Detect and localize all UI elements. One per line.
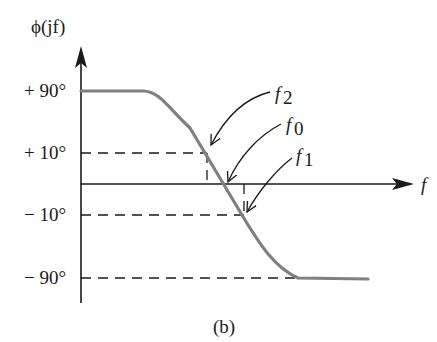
annotation-f2: f 2 [275, 83, 293, 108]
annotation-f0: f 0 [286, 114, 304, 139]
tick-label-minus90: − 90° [24, 267, 66, 288]
figure-caption: (b) [213, 316, 235, 338]
y-axis-label: ϕ(jf) [31, 16, 65, 38]
svg-text:2: 2 [283, 87, 293, 108]
svg-text:f: f [296, 145, 304, 166]
phase-diagram: ϕ(jf) + 90° + 10° − 10° − 90° f 2 f 0 f … [0, 0, 437, 342]
annotation-f1: f 1 [296, 145, 314, 170]
svg-text:0: 0 [294, 118, 304, 139]
svg-text:1: 1 [304, 149, 314, 170]
svg-text:f: f [286, 114, 294, 135]
tick-label-minus10: − 10° [24, 204, 66, 225]
phase-curve [81, 91, 368, 279]
f0-arrow-icon [228, 124, 281, 182]
annotation-arrows [211, 92, 292, 212]
svg-text:f: f [275, 83, 283, 104]
tick-label-plus90: + 90° [24, 80, 66, 101]
f1-arrow-icon [247, 158, 292, 212]
tick-label-plus10: + 10° [24, 142, 66, 163]
x-axis [81, 178, 414, 190]
reference-lines [81, 153, 295, 278]
y-axis [75, 46, 87, 303]
x-axis-label: f [421, 174, 429, 195]
